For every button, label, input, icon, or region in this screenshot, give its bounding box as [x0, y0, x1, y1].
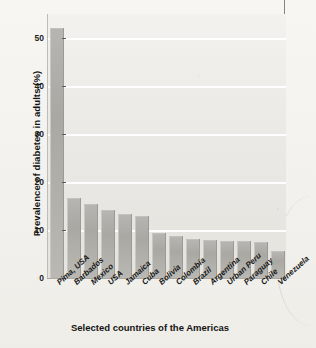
bars-group	[48, 14, 286, 278]
y-tick-label-50: 50	[28, 34, 44, 43]
x-axis-title: Selected countries of the Americas	[0, 322, 300, 333]
bar-slot	[167, 14, 184, 278]
y-tick-mark-30	[62, 134, 66, 135]
bar-slot	[235, 14, 252, 278]
x-axis-category-labels: Pima, USABarbadosMexicoUSAJamaicaCubaBol…	[48, 280, 286, 326]
bar-slot	[99, 14, 116, 278]
y-tick-mark-10	[62, 230, 66, 231]
y-tick-label-0: 0	[28, 274, 44, 283]
y-tick-mark-40	[62, 86, 66, 87]
y-axis-title: Prevalence of diabetes in adults (%)	[31, 59, 42, 249]
bar-slot	[82, 14, 99, 278]
y-tick-mark-20	[62, 182, 66, 183]
bar-slot	[201, 14, 218, 278]
bar-slot	[65, 14, 82, 278]
bar-slot	[184, 14, 201, 278]
bar-slot	[252, 14, 269, 278]
bar-pima-usa	[50, 28, 63, 278]
y-tick-mark-50	[62, 38, 66, 39]
bar-slot	[269, 14, 286, 278]
bar-slot	[116, 14, 133, 278]
bar-chart-plot-area	[48, 14, 286, 278]
scanned-page: 01020304050 Prevalence of diabetes in ad…	[0, 0, 316, 348]
bar-jamaica	[118, 214, 131, 278]
bar-slot	[133, 14, 150, 278]
bar-slot	[150, 14, 167, 278]
y-axis-line	[47, 14, 48, 279]
bar-slot	[48, 14, 65, 278]
bar-slot	[218, 14, 235, 278]
